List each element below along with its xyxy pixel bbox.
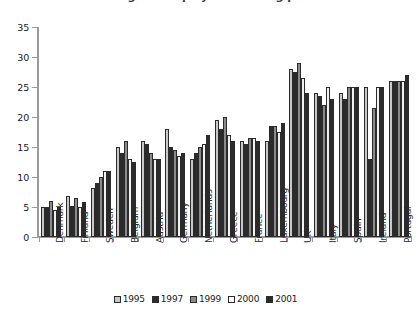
y-axis-tick-label: 10 — [0, 172, 29, 182]
bar-group — [361, 27, 386, 237]
page-title: Percentage of employees working part-tim… — [72, 0, 346, 3]
bar-group — [64, 27, 89, 237]
bar-chart: 05101520253035 DenmarkFinlandSwedenBelgi… — [0, 9, 418, 323]
y-axis-tick-label-text: 0 — [0, 232, 29, 243]
x-axis-category-label: France — [254, 214, 264, 243]
x-axis-category-label: Spain — [353, 218, 363, 243]
legend-label: 1997 — [161, 294, 183, 304]
y-axis-tick-label-text: 10 — [0, 172, 29, 183]
bar — [355, 87, 359, 237]
y-axis-tick-label-text: 20 — [0, 112, 29, 123]
x-axis-category-label: Sweden — [105, 208, 115, 243]
y-axis-tick-label: 0 — [0, 232, 29, 242]
x-axis-category-label: Portugal — [403, 207, 413, 243]
y-axis-tick-label: 35 — [0, 22, 29, 32]
y-axis-tick — [32, 207, 38, 208]
y-axis-tick — [32, 87, 38, 88]
y-axis-tick — [32, 237, 38, 238]
x-axis-tick — [39, 238, 40, 242]
bar — [330, 99, 334, 237]
y-axis-tick — [32, 57, 38, 58]
legend-swatch — [190, 296, 197, 303]
x-axis-category-label: Luxembourg — [279, 188, 289, 243]
bar-group — [138, 27, 163, 237]
y-axis-tick-label-text: 35 — [0, 22, 29, 33]
y-axis-tick-label: 30 — [0, 52, 29, 62]
chart-title-cropped: Percentage of employees working part-tim… — [0, 0, 418, 9]
bar-group — [113, 27, 138, 237]
legend-item: 1995 — [114, 294, 145, 304]
legend-label: 2001 — [275, 294, 297, 304]
legend-label: 1999 — [199, 294, 221, 304]
bar-group — [89, 27, 114, 237]
y-axis-tick — [32, 27, 38, 28]
bar-group — [386, 27, 411, 237]
bar-group — [312, 27, 337, 237]
x-axis-category-label: Denmark — [55, 202, 65, 243]
x-axis-category-label: Belgium — [130, 207, 140, 243]
bar-group — [287, 27, 312, 237]
y-axis-tick-label-text: 5 — [0, 202, 29, 213]
y-axis-tick — [32, 177, 38, 178]
legend-label: 1995 — [123, 294, 145, 304]
legend-swatch — [266, 296, 273, 303]
legend-label: 2000 — [237, 294, 259, 304]
y-axis-tick-label: 5 — [0, 202, 29, 212]
plot-area — [39, 27, 411, 237]
legend-item: 1997 — [152, 294, 183, 304]
legend-item: 2001 — [266, 294, 297, 304]
x-axis-category-label: Netherlands — [204, 189, 214, 243]
legend-item: 2000 — [228, 294, 259, 304]
legend-swatch — [114, 296, 121, 303]
x-axis-category-label: UK — [303, 231, 313, 243]
legend-swatch — [228, 296, 235, 303]
bar-group — [237, 27, 262, 237]
y-axis-tick-label: 20 — [0, 112, 29, 122]
y-axis-tick-label-text: 15 — [0, 142, 29, 153]
legend-item: 1999 — [190, 294, 221, 304]
y-axis-tick-label: 15 — [0, 142, 29, 152]
chart-legend: 19951997199920002001 — [0, 294, 418, 304]
x-axis-category-label: Italy — [328, 224, 338, 243]
x-axis-category-label: Finland — [80, 212, 90, 243]
y-axis-tick — [32, 147, 38, 148]
legend-swatch — [152, 296, 159, 303]
x-axis-category-label: Austria — [155, 212, 165, 243]
x-axis-category-label: Greece — [229, 212, 239, 243]
bar-group — [213, 27, 238, 237]
y-axis-tick — [32, 117, 38, 118]
bar — [305, 93, 309, 237]
y-axis-tick-label: 25 — [0, 82, 29, 92]
x-axis-category-label: Ireland — [378, 213, 388, 243]
bar-group — [337, 27, 362, 237]
y-axis-tick-label-text: 25 — [0, 82, 29, 93]
x-axis-category-label: Germany — [179, 202, 189, 243]
y-axis-tick-label-text: 30 — [0, 52, 29, 63]
